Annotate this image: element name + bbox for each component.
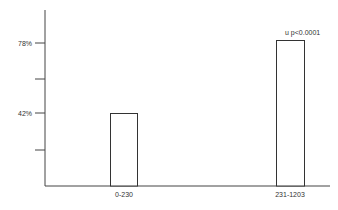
bar-chart: 78% 42% 0-230 231-1203 u p<0.0001	[0, 0, 338, 210]
x-category-label: 0-230	[115, 191, 133, 198]
significance-annotation: u p<0.0001	[285, 29, 320, 37]
y-tick-label-78: 78%	[18, 40, 32, 47]
y-tick-label-42: 42%	[18, 110, 32, 117]
bar-231-1203	[277, 41, 305, 187]
bar-0-230	[111, 114, 138, 187]
x-category-label: 231-1203	[275, 191, 305, 198]
